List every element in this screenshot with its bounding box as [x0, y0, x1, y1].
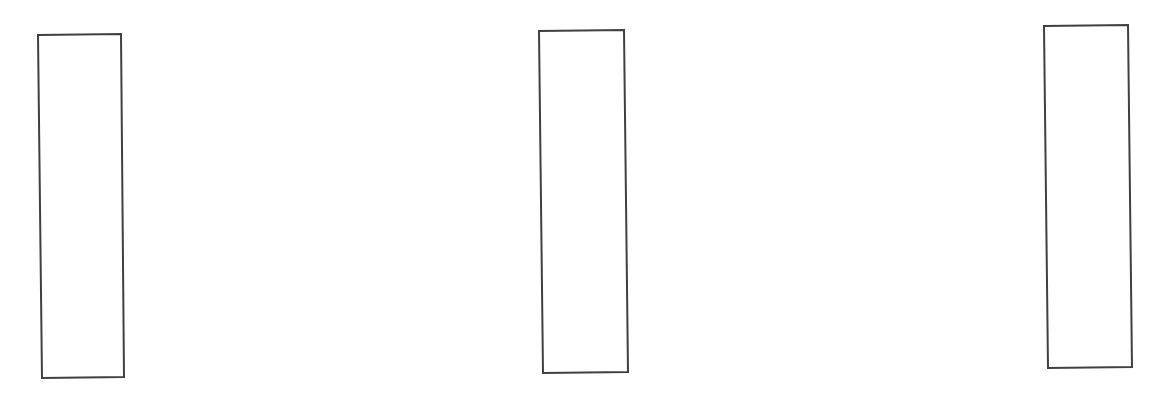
rectangle-left [38, 34, 124, 378]
rectangles-drawing [0, 0, 1168, 400]
rectangle-middle [539, 30, 628, 373]
rectangle-right [1044, 25, 1132, 368]
drawing-canvas [0, 0, 1168, 400]
